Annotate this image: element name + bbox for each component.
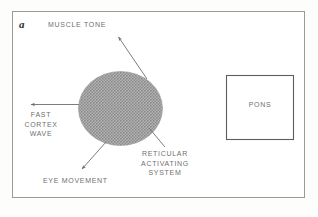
figure-panel: a MUSCLE TONE FAST CORTEX WAVE EYE MO bbox=[0, 0, 318, 217]
label-pons: PONS bbox=[226, 100, 294, 109]
reticular-formation-ellipse bbox=[79, 72, 163, 146]
ras-leader-line bbox=[149, 128, 165, 147]
label-eye-movement: EYE MOVEMENT bbox=[43, 176, 108, 186]
eye-movement-arrow bbox=[82, 142, 106, 169]
label-fast-cortex-wave: FAST CORTEX WAVE bbox=[16, 110, 66, 139]
label-reticular-activating-system: RETICULAR ACTIVATING SYSTEM bbox=[138, 149, 192, 178]
label-muscle-tone: MUSCLE TONE bbox=[48, 20, 106, 30]
